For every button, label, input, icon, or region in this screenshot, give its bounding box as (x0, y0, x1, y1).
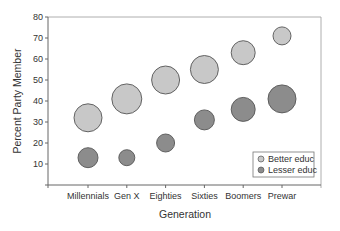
bubble-better-educ (273, 27, 291, 45)
y-axis: 1020304050607080 (33, 12, 48, 188)
y-tick-label: 10 (33, 159, 43, 169)
bubble-lesser-educ (157, 134, 175, 152)
x-tick-label: Gen X (114, 191, 140, 201)
x-axis: MillennialsGen XEightiesSixtiesBoomersPr… (45, 185, 321, 201)
legend-label-better-educ: Better educ (268, 154, 315, 164)
y-tick-label: 70 (33, 33, 43, 43)
bubble-better-educ (231, 41, 255, 65)
bubble-lesser-educ (231, 97, 255, 121)
bubble-lesser-educ (194, 110, 214, 130)
y-tick-label: 20 (33, 138, 43, 148)
y-tick-label: 30 (33, 117, 43, 127)
y-tick-label: 40 (33, 96, 43, 106)
x-tick-label: Prewar (268, 191, 297, 201)
y-axis-title: Percent Party Member (11, 48, 23, 154)
y-tick-label: 60 (33, 54, 43, 64)
bubble-lesser-educ (78, 148, 98, 168)
x-tick-label: Millennials (67, 191, 110, 201)
x-axis-title: Generation (159, 208, 211, 220)
bubble-lesser-educ (119, 150, 135, 166)
legend-label-lesser-educ: Lesser educ (268, 165, 318, 175)
y-tick-label: 80 (33, 12, 43, 22)
bubble-chart: 1020304050607080 MillennialsGen XEightie… (0, 0, 340, 231)
bubble-better-educ (190, 56, 218, 84)
bubbles (74, 27, 296, 168)
bubble-better-educ (112, 84, 142, 114)
x-tick-label: Sixties (191, 191, 218, 201)
x-tick-label: Eighties (150, 191, 183, 201)
bubble-better-educ (74, 104, 102, 132)
legend: Better educ Lesser educ (253, 152, 318, 177)
bubble-better-educ (152, 66, 180, 94)
bubble-lesser-educ (268, 85, 296, 113)
legend-swatch-better-educ (258, 156, 264, 162)
x-tick-label: Boomers (225, 191, 262, 201)
legend-swatch-lesser-educ (258, 167, 264, 173)
y-tick-label: 50 (33, 75, 43, 85)
